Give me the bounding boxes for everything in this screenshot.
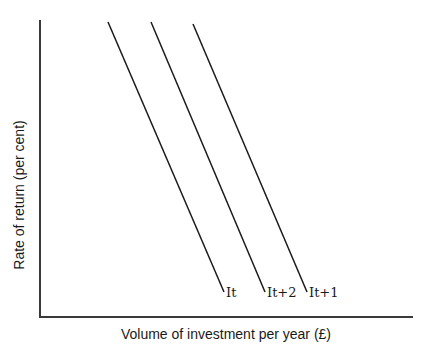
line-it (108, 22, 224, 292)
line-it-plus-2 (151, 22, 265, 292)
label-it-plus-1: It+1 (309, 285, 339, 300)
label-it: It (226, 285, 237, 300)
investment-demand-chart: It It+2 It+1 Volume of investment per ye… (0, 0, 430, 348)
line-it-plus-1 (193, 24, 307, 292)
y-axis-label: Rate of return (per cent) (11, 120, 27, 269)
label-it-plus-2: It+2 (267, 285, 297, 300)
x-axis-label: Volume of investment per year (£) (121, 326, 331, 342)
